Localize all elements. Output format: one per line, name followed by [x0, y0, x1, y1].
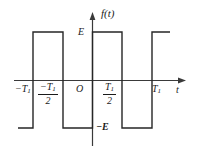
vertical-axis-label: f(t): [101, 8, 114, 19]
tick-neg-T1-subscript: 1: [27, 87, 31, 95]
tick-label-T1-over-2: T1 2: [103, 82, 116, 106]
tick-T1-subscript: 1: [158, 87, 162, 95]
fraction-denominator: 2: [38, 95, 58, 106]
fraction-numerator: T1: [103, 82, 116, 94]
figure-container: f(t) E −E O t −T1 −T1 2 T1 2 T1: [0, 0, 197, 156]
fraction-numerator: −T1: [38, 82, 58, 94]
horizontal-axis-label: t: [176, 85, 179, 95]
fraction-denominator: 2: [103, 95, 116, 106]
numerator-base: −T: [40, 81, 52, 92]
numerator-subscript: 1: [52, 85, 56, 93]
tick-neg-T1-base: −T: [15, 83, 27, 94]
square-wave-plot: [0, 0, 197, 156]
amplitude-label-E: E: [78, 27, 84, 37]
numerator-subscript: 1: [111, 85, 115, 93]
amplitude-label-negative-E: −E: [96, 122, 109, 132]
origin-label: O: [76, 84, 83, 94]
tick-label-T1: T1: [152, 84, 161, 95]
tick-label-neg-T1: −T1: [15, 84, 31, 95]
tick-label-neg-T1-over-2: −T1 2: [38, 82, 58, 106]
